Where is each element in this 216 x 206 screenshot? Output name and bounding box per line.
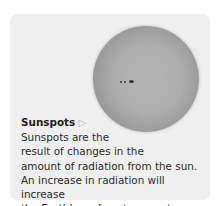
caption-title: Sunspots <box>21 116 75 128</box>
caption-line: result of changes in the <box>21 144 207 158</box>
caption-line: amount of radiation from the sun. <box>21 159 207 173</box>
caption-line: An increase in radiation will increase <box>21 173 207 201</box>
caption-line: Sunspots are the <box>21 130 207 144</box>
arrow-right-icon: ▷ <box>79 117 87 128</box>
caption-title-row: Sunspots ▷ <box>21 115 207 130</box>
caption-line: the Earth’s surface temperature. <box>21 201 207 206</box>
caption: Sunspots ▷ Sunspots are the result of ch… <box>21 115 207 206</box>
sunspot-cluster-icon <box>120 80 136 84</box>
